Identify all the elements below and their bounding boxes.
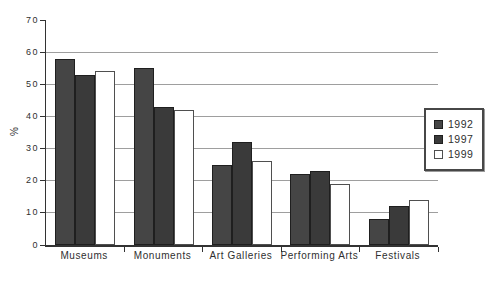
legend-item-1992: 1992: [434, 119, 473, 130]
legend-swatch-1992: [434, 120, 443, 129]
bar-art-galleries-1999: [252, 161, 272, 245]
y-axis-labels: 010203040506070: [0, 20, 39, 245]
bar-group-museums: [46, 20, 124, 245]
legend-swatch-1997: [434, 135, 443, 144]
legend-item-1997: 1997: [434, 134, 473, 145]
bar-monuments-1999: [174, 110, 194, 245]
bar-festivals-1999: [409, 200, 429, 245]
bar-festivals-1997: [389, 206, 409, 245]
bar-group-monuments: [124, 20, 202, 245]
bar-group-performing-arts: [281, 20, 359, 245]
y-tick-label-40: 40: [0, 111, 39, 122]
bar-monuments-1997: [154, 107, 174, 245]
bar-museums-1992: [55, 59, 75, 245]
bar-chart: % 010203040506070 MuseumsMonumentsArt Ga…: [0, 0, 491, 281]
bar-festivals-1992: [369, 219, 389, 245]
legend-item-1999: 1999: [434, 149, 473, 160]
plot-area: [45, 20, 438, 247]
legend-swatch-1999: [434, 150, 443, 159]
legend: 199219971999: [424, 108, 484, 171]
y-tick-label-30: 30: [0, 143, 39, 154]
bar-performing-arts-1992: [290, 174, 310, 245]
y-tick-label-60: 60: [0, 47, 39, 58]
bar-art-galleries-1992: [212, 165, 232, 245]
x-category-label-performing-arts: Performing Arts: [280, 250, 358, 261]
x-category-label-museums: Museums: [60, 250, 108, 261]
bar-monuments-1992: [134, 68, 154, 245]
bar-museums-1999: [95, 71, 115, 245]
x-category-label-monuments: Monuments: [134, 250, 192, 261]
x-axis-labels: MuseumsMonumentsArt GalleriesPerforming …: [45, 250, 437, 264]
bar-art-galleries-1997: [232, 142, 252, 245]
y-tick-label-20: 20: [0, 175, 39, 186]
x-category-label-art-galleries: Art Galleries: [210, 250, 273, 261]
x-axis-tick-5: [438, 247, 439, 252]
y-tick-label-50: 50: [0, 79, 39, 90]
bar-group-art-galleries: [203, 20, 281, 245]
bar-museums-1997: [75, 75, 95, 245]
legend-label-1999: 1999: [448, 149, 473, 160]
y-tick-label-10: 10: [0, 207, 39, 218]
bar-performing-arts-1997: [310, 171, 330, 245]
bar-performing-arts-1999: [330, 184, 350, 245]
y-tick-label-70: 70: [0, 15, 39, 26]
x-category-label-festivals: Festivals: [375, 250, 420, 261]
y-tick-label-0: 0: [0, 240, 39, 251]
legend-label-1992: 1992: [448, 119, 473, 130]
legend-label-1997: 1997: [448, 134, 473, 145]
